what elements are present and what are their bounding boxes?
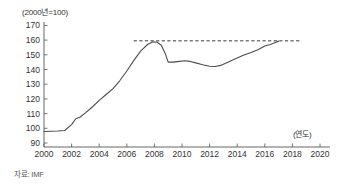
- y-axis-group: 170 160 150 140 130 120 110 100 90: [26, 20, 48, 148]
- y-tick-label: 150: [26, 50, 40, 60]
- x-tick-label: 2014: [228, 149, 247, 159]
- x-tick-label: 2012: [200, 149, 219, 159]
- y-tick-marks: [44, 25, 48, 143]
- y-tick-label: 140: [26, 65, 40, 75]
- y-tick-labels: 170 160 150 140 130 120 110 100 90: [26, 20, 40, 148]
- y-tick-label: 160: [26, 35, 40, 45]
- y-tick-label: 120: [26, 94, 40, 104]
- x-tick-label: 2000: [35, 149, 54, 159]
- series-line-index: [44, 41, 279, 131]
- y-tick-label: 130: [26, 79, 40, 89]
- y-tick-label: 90: [31, 138, 41, 148]
- x-tick-labels: 2000 2002 2004 2006 2008 2010 2012 2014 …: [35, 149, 330, 159]
- x-tick-label: 2002: [62, 149, 81, 159]
- chart-container: (2000년=100) (연도) 자료: IMF 170 160 150 140: [0, 0, 346, 187]
- x-axis-group: 2000 2002 2004 2006 2008 2010 2012 2014 …: [35, 144, 330, 160]
- x-tick-label: 2008: [145, 149, 164, 159]
- x-tick-marks: [44, 144, 320, 148]
- x-tick-label: 2010: [173, 149, 192, 159]
- x-tick-label: 2004: [90, 149, 109, 159]
- y-tick-label: 100: [26, 123, 40, 133]
- line-chart-plot: 170 160 150 140 130 120 110 100 90: [0, 0, 346, 187]
- x-tick-label: 2018: [283, 149, 302, 159]
- y-tick-label: 170: [26, 20, 40, 30]
- x-tick-label: 2020: [311, 149, 330, 159]
- y-tick-label: 110: [26, 109, 40, 119]
- x-tick-label: 2006: [117, 149, 136, 159]
- x-tick-label: 2016: [255, 149, 274, 159]
